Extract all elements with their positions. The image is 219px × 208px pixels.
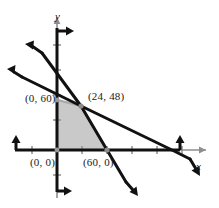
x-constraint-direction-arrow-right-icon — [176, 135, 185, 150]
vertex-dot-60-0 — [104, 147, 109, 152]
vertex-label-60-0: (60, 0) — [83, 156, 114, 168]
steep-line-lower-arrow-icon — [126, 182, 138, 196]
x-axis-label: x — [196, 160, 201, 172]
shallow-line-upper-arrow-icon — [7, 65, 22, 77]
vertex-label-0-0: (0, 0) — [30, 156, 55, 168]
vertex-dot-origin — [55, 148, 60, 153]
vertex-label-0-60: (0, 60) — [25, 92, 56, 104]
steep-line-upper-arrow-icon — [25, 41, 42, 54]
coordinate-plane-svg — [0, 0, 219, 208]
graph-figure: (0, 60) (24, 48) (0, 0) (60, 0) y x — [0, 0, 219, 208]
vertex-dot-24-48 — [78, 103, 83, 108]
x-axis-arrowhead-icon — [199, 147, 206, 154]
x-constraint-direction-arrow-icon — [12, 135, 21, 150]
y-constraint-direction-arrow-icon — [57, 27, 74, 36]
vertex-label-24-48: (24, 48) — [88, 90, 124, 102]
y-constraint-direction-arrow-bottom-icon — [57, 187, 72, 196]
y-axis-label: y — [55, 10, 60, 22]
